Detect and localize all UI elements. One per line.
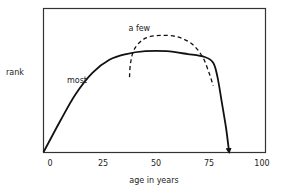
x-tick-label: 0 [47, 159, 52, 168]
series-line-a-few [130, 35, 214, 86]
y-axis-label: rank [6, 68, 24, 77]
x-tick-label: 25 [98, 159, 108, 168]
x-tick-label: 100 [254, 159, 269, 168]
annotation-most: most [67, 76, 87, 85]
annotation-a-few: a few [128, 24, 150, 33]
x-tick-label: 75 [204, 159, 214, 168]
chart: 0255075100 rank age in years mosta few [0, 0, 286, 190]
x-axis-label: age in years [129, 176, 178, 185]
x-tick-label: 50 [151, 159, 161, 168]
series-line-most [44, 51, 230, 152]
